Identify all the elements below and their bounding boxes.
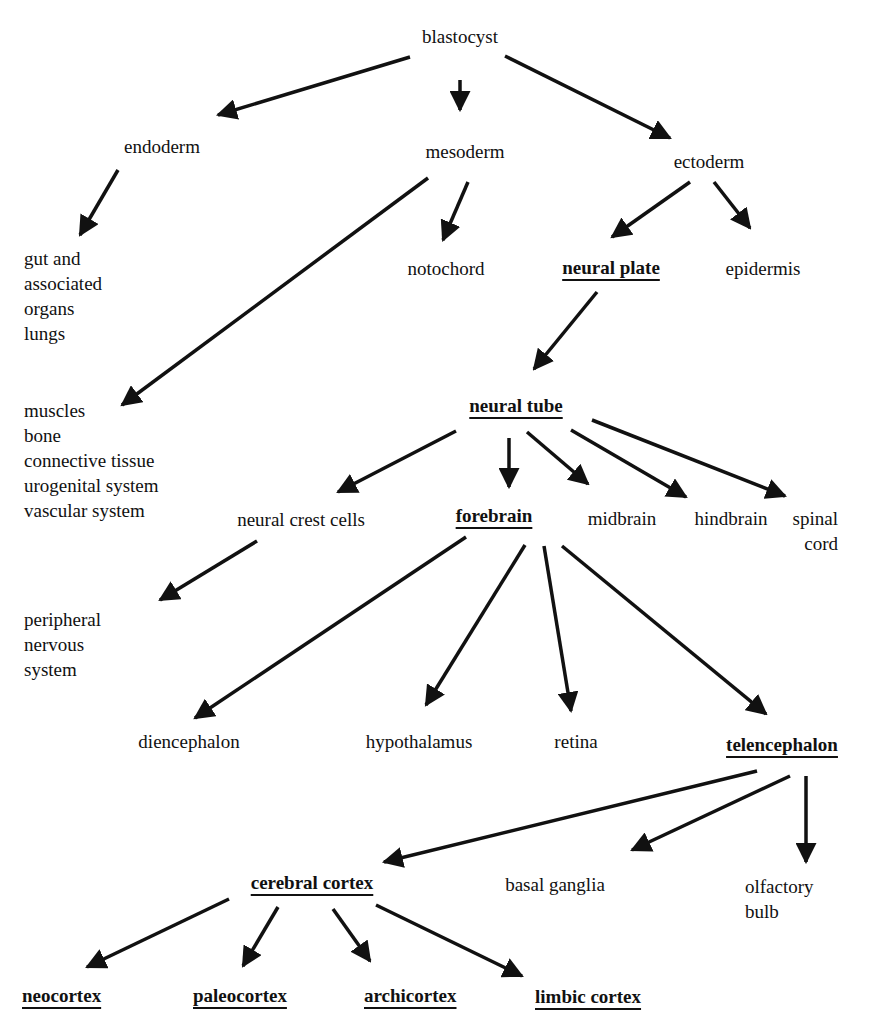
arrow-neuralplate-neuraltube bbox=[534, 292, 597, 369]
node-limbic-cortex: limbic cortex bbox=[535, 984, 641, 1009]
node-gut-organs: gut and associated organs lungs bbox=[24, 246, 102, 346]
node-neocortex: neocortex bbox=[22, 983, 101, 1008]
node-blastocyst: blastocyst bbox=[422, 24, 498, 49]
arrow-mesoderm-notochord bbox=[443, 182, 468, 240]
arrow-forebrain-retina bbox=[544, 546, 571, 711]
node-forebrain: forebrain bbox=[456, 503, 533, 528]
node-mesoderm: mesoderm bbox=[425, 139, 504, 164]
arrow-cortex-neocortex bbox=[87, 899, 229, 967]
arrow-blastocyst-endoderm bbox=[218, 57, 410, 115]
node-basal-ganglia: basal ganglia bbox=[505, 872, 605, 897]
node-paleocortex: paleocortex bbox=[193, 983, 287, 1008]
node-neural-plate: neural plate bbox=[562, 255, 660, 280]
node-cerebral-cortex: cerebral cortex bbox=[251, 870, 374, 895]
node-mesoderm-derivatives: muscles bone connective tissue urogenita… bbox=[24, 398, 159, 523]
arrow-telencephalon-basalganglia bbox=[632, 776, 790, 850]
arrow-neuraltube-hindbrain bbox=[571, 430, 686, 497]
arrow-blastocyst-ectoderm bbox=[505, 56, 670, 138]
arrow-endoderm-gut bbox=[80, 170, 118, 235]
node-hindbrain: hindbrain bbox=[695, 506, 768, 531]
arrow-ectoderm-epidermis bbox=[714, 182, 750, 228]
node-telencephalon: telencephalon bbox=[726, 732, 838, 757]
arrow-neuraltube-neuralcrest bbox=[338, 431, 456, 492]
node-midbrain: midbrain bbox=[588, 506, 657, 531]
arrow-forebrain-diencephalon bbox=[195, 537, 466, 718]
node-archicortex: archicortex bbox=[364, 983, 457, 1008]
node-neural-crest-cells: neural crest cells bbox=[237, 507, 365, 532]
arrow-neuralcrest-pns bbox=[160, 541, 257, 600]
node-endoderm: endoderm bbox=[124, 134, 200, 159]
arrow-neuraltube-midbrain bbox=[527, 432, 588, 484]
arrow-mesoderm-derivatives bbox=[122, 178, 428, 405]
arrow-ectoderm-neuralplate bbox=[612, 182, 690, 237]
node-hypothalamus: hypothalamus bbox=[366, 729, 473, 754]
arrow-forebrain-hypothalamus bbox=[426, 545, 525, 705]
node-spinal-cord: spinal cord bbox=[780, 506, 838, 556]
node-epidermis: epidermis bbox=[726, 256, 801, 281]
arrow-cortex-limbic bbox=[376, 905, 522, 976]
node-ectoderm: ectoderm bbox=[674, 149, 745, 174]
arrow-forebrain-telencephalon bbox=[562, 546, 766, 714]
arrow-cortex-archicortex bbox=[333, 909, 370, 961]
node-neural-tube: neural tube bbox=[469, 393, 562, 418]
node-diencephalon: diencephalon bbox=[138, 729, 239, 754]
node-retina: retina bbox=[554, 729, 597, 754]
arrow-cortex-paleocortex bbox=[243, 907, 278, 966]
node-olfactory-bulb: olfactory bulb bbox=[745, 874, 814, 924]
diagram-canvas: blastocyst endoderm mesoderm ectoderm gu… bbox=[0, 0, 871, 1032]
node-notochord: notochord bbox=[407, 256, 484, 281]
node-peripheral-nervous-system: peripheral nervous system bbox=[24, 607, 101, 682]
